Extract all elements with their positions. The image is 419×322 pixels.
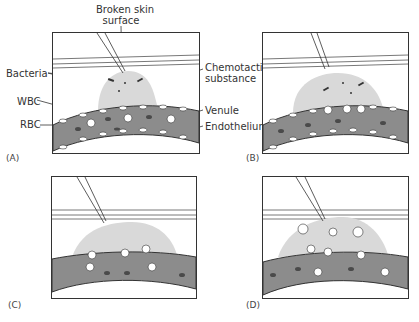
panel-b-art bbox=[263, 33, 408, 153]
panel-b bbox=[262, 32, 409, 154]
label-chemotactic: Chemotactic substance bbox=[205, 62, 268, 84]
panel-a-label: (A) bbox=[6, 153, 19, 163]
label-chemotactic-l1: Chemotactic bbox=[205, 62, 268, 73]
label-broken-skin-l1: Broken skin bbox=[96, 4, 146, 15]
panel-a-art bbox=[53, 33, 199, 153]
panel-d bbox=[262, 176, 409, 299]
panel-b-label: (B) bbox=[246, 153, 259, 163]
label-wbc: WBC bbox=[17, 96, 41, 107]
panel-d-label: (D) bbox=[246, 300, 260, 310]
panel-c-art bbox=[52, 177, 196, 298]
label-bacteria: Bacteria bbox=[6, 68, 48, 79]
panel-c bbox=[51, 176, 197, 299]
label-broken-skin: Broken skin surface bbox=[96, 4, 146, 26]
label-chemotactic-l2: substance bbox=[205, 73, 268, 84]
panel-a bbox=[52, 32, 200, 154]
label-venule: Venule bbox=[205, 105, 239, 116]
label-endothelium: Endothelium bbox=[205, 121, 268, 132]
panel-d-art bbox=[263, 177, 408, 298]
panel-c-label: (C) bbox=[8, 300, 21, 310]
label-broken-skin-l2: surface bbox=[96, 15, 146, 26]
label-rbc: RBC bbox=[20, 119, 41, 130]
